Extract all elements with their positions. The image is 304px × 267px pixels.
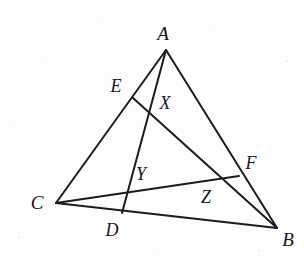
- scan-speck: [286, 60, 288, 62]
- scan-speck: [96, 22, 97, 23]
- cevian-CF: [56, 176, 239, 203]
- side-CB: [56, 203, 277, 228]
- scan-speck: [12, 120, 13, 121]
- point-label-Y: Y: [136, 165, 146, 183]
- point-label-D: D: [106, 221, 119, 239]
- point-label-F: F: [246, 154, 257, 172]
- vertex-label-C: C: [31, 193, 44, 212]
- side-AB: [166, 50, 277, 228]
- scan-speck: [212, 30, 213, 31]
- point-label-Z: Z: [201, 188, 211, 206]
- side-AC: [56, 50, 166, 203]
- scan-speck: [152, 252, 153, 253]
- scan-speck: [258, 250, 260, 252]
- geometry-figure: A B C D E F X Y Z: [0, 0, 304, 267]
- point-label-E: E: [111, 77, 122, 95]
- triangle-cevians-svg: [0, 0, 304, 267]
- scan-speck: [40, 62, 41, 63]
- vertex-label-B: B: [282, 230, 294, 249]
- vertex-label-A: A: [157, 24, 169, 43]
- point-label-X: X: [160, 94, 171, 112]
- scan-speck: [18, 236, 20, 238]
